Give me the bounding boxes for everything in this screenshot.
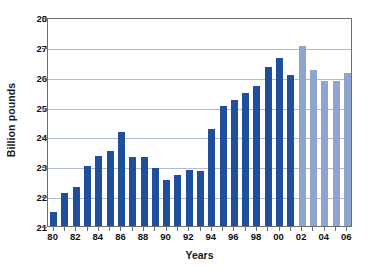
y-axis-tick-mark: [42, 227, 47, 228]
bar: [276, 58, 283, 227]
x-axis-tick-mark: [64, 227, 65, 231]
x-axis-tick-mark: [267, 227, 268, 231]
x-axis-tick-mark: [177, 227, 178, 231]
x-axis-tick-label: 92: [183, 231, 194, 242]
bar: [95, 156, 102, 227]
bar: [333, 81, 340, 227]
x-axis-tick-mark: [200, 227, 201, 231]
bar: [299, 46, 306, 227]
bar: [186, 170, 193, 227]
x-axis-tick-mark: [154, 227, 155, 231]
x-axis-tick-mark: [245, 227, 246, 231]
x-axis-tick-mark: [335, 227, 336, 231]
bar: [129, 157, 136, 227]
x-axis-tick-mark: [109, 227, 110, 231]
x-axis-tick-label: 90: [160, 231, 171, 242]
bar: [253, 86, 260, 227]
bar: [152, 168, 159, 227]
bar: [141, 157, 148, 227]
x-axis-tick-label: 98: [251, 231, 262, 242]
x-axis-tick-mark: [222, 227, 223, 231]
bar: [265, 67, 272, 227]
bar: [208, 129, 215, 227]
bar-chart: Billion pounds 2122232425262728 80828486…: [0, 0, 375, 272]
bar: [61, 193, 68, 227]
bar: [321, 81, 328, 227]
x-axis-tick-label: 80: [47, 231, 58, 242]
x-axis-tick-mark: [312, 227, 313, 231]
x-axis-tick-label: 82: [70, 231, 81, 242]
x-axis-tick-label: 96: [228, 231, 239, 242]
x-axis-tick-mark: [87, 227, 88, 231]
bar: [107, 151, 114, 227]
bar: [310, 70, 317, 227]
x-axis-tick-label: 84: [93, 231, 104, 242]
bar: [84, 166, 91, 227]
bar: [231, 100, 238, 227]
x-axis-tick-mark: [290, 227, 291, 231]
plot-area: [47, 18, 352, 227]
bar: [242, 93, 249, 227]
x-axis-title: Years: [47, 249, 352, 261]
bar: [344, 73, 351, 227]
x-axis-tick-label: 94: [205, 231, 216, 242]
bar: [287, 75, 294, 227]
x-axis-tick-label: 88: [138, 231, 149, 242]
x-axis-tick-label: 86: [115, 231, 126, 242]
x-axis-tick-label: 06: [341, 231, 352, 242]
x-axis-tick-label: 02: [296, 231, 307, 242]
x-axis-tick-label: 04: [318, 231, 329, 242]
bar: [118, 132, 125, 227]
bar: [174, 175, 181, 227]
bar: [220, 106, 227, 227]
bar: [73, 187, 80, 227]
x-axis-tick-mark: [132, 227, 133, 231]
x-axis-tick-label: 00: [273, 231, 284, 242]
bar: [163, 180, 170, 227]
y-axis-title: Billion pounds: [0, 0, 22, 240]
bar: [50, 212, 57, 227]
y-axis-title-label: Billion pounds: [5, 83, 17, 157]
bar: [197, 171, 204, 227]
